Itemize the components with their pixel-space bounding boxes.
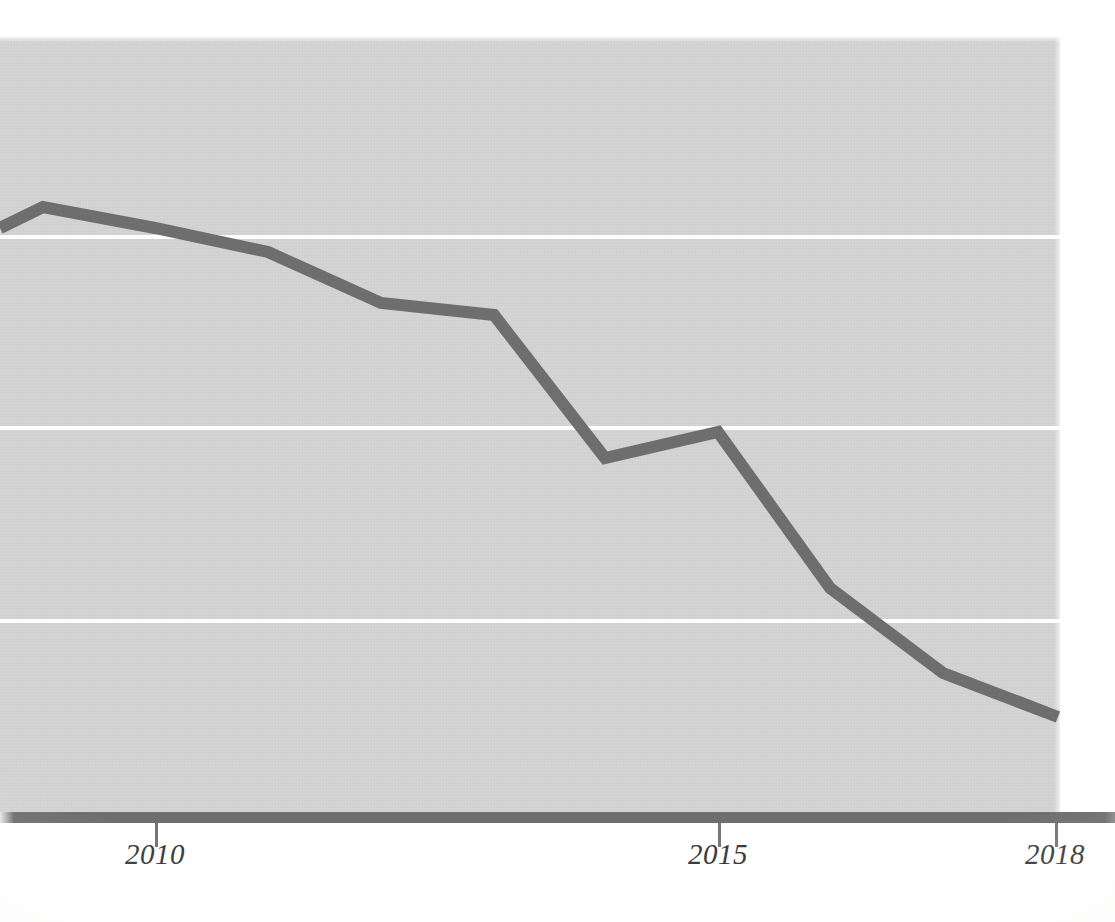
plot-area (0, 37, 1060, 812)
line-chart: 2010 2015 2018 (0, 0, 1115, 922)
x-tick-label-2018: 2018 (1025, 838, 1085, 871)
axis-left-fade (0, 812, 14, 823)
plot-right-fade (1054, 37, 1060, 812)
gridline-upper (0, 235, 1060, 239)
plot-top-fade (0, 37, 1060, 42)
x-tick-label-2015: 2015 (688, 838, 748, 871)
x-axis-line (0, 812, 1115, 823)
gridline-lower (0, 619, 1060, 623)
gridline-middle (0, 426, 1060, 430)
axis-right-fade (1105, 812, 1115, 823)
x-tick-label-2010: 2010 (125, 838, 185, 871)
